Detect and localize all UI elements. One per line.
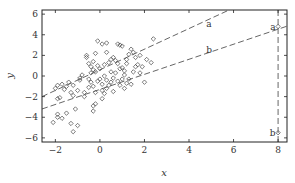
x-axis-label: x bbox=[161, 167, 167, 178]
data-point bbox=[69, 121, 73, 125]
data-point bbox=[104, 78, 108, 82]
y-tick-label: −2 bbox=[25, 92, 38, 102]
y-tick-label: 4 bbox=[32, 30, 38, 40]
data-point bbox=[118, 83, 122, 87]
data-point bbox=[120, 77, 124, 81]
data-point bbox=[122, 86, 126, 90]
data-point bbox=[95, 79, 99, 83]
x-tick-label: 8 bbox=[275, 145, 281, 155]
data-point bbox=[104, 50, 108, 54]
data-point bbox=[111, 76, 115, 80]
data-point bbox=[149, 60, 153, 64]
dashed-line-b bbox=[42, 26, 287, 109]
data-point bbox=[109, 70, 113, 74]
data-point bbox=[104, 41, 108, 45]
data-point bbox=[87, 85, 91, 89]
x-tick-label: −2 bbox=[49, 145, 62, 155]
data-point bbox=[64, 111, 68, 115]
line-label-a: a bbox=[206, 19, 212, 29]
y-axis-label: y bbox=[4, 73, 15, 80]
data-point bbox=[100, 42, 104, 46]
fit-lines bbox=[42, 0, 287, 142]
data-point bbox=[91, 109, 95, 113]
data-point bbox=[91, 84, 95, 88]
data-point bbox=[93, 51, 97, 55]
data-point bbox=[55, 112, 59, 116]
data-point bbox=[91, 104, 95, 108]
data-point bbox=[55, 115, 59, 119]
data-point bbox=[129, 82, 133, 86]
y-tick-label: −6 bbox=[25, 133, 39, 143]
line-labels: abab bbox=[206, 19, 276, 137]
data-point bbox=[98, 77, 102, 81]
x-tick-label: 2 bbox=[142, 145, 148, 155]
data-point bbox=[91, 59, 95, 63]
data-point bbox=[124, 81, 128, 85]
data-point bbox=[100, 82, 104, 86]
y-tick-label: 6 bbox=[32, 9, 38, 19]
x-axis-ticks: −202468 bbox=[49, 10, 282, 155]
dashed-line-a bbox=[42, 0, 287, 97]
data-point bbox=[131, 70, 135, 74]
data-point bbox=[60, 116, 64, 120]
data-point bbox=[144, 57, 148, 61]
data-point bbox=[60, 82, 64, 86]
data-point bbox=[113, 71, 117, 75]
scatter-chart: −202468 −6−4−20246 abab x y bbox=[0, 0, 295, 183]
x-tick-label: 4 bbox=[186, 145, 192, 155]
data-point bbox=[138, 71, 142, 75]
data-point bbox=[100, 96, 104, 100]
data-point bbox=[138, 53, 142, 57]
outlier-label-a: a bbox=[270, 22, 276, 32]
y-tick-label: −4 bbox=[25, 112, 39, 122]
data-point bbox=[151, 37, 155, 41]
outlier-label-b: b bbox=[270, 128, 276, 138]
data-point bbox=[102, 62, 106, 66]
line-label-b: b bbox=[206, 45, 212, 55]
y-axis-ticks: −6−4−20246 bbox=[25, 9, 287, 143]
data-point bbox=[93, 102, 97, 106]
data-point bbox=[71, 129, 75, 133]
data-point bbox=[75, 88, 79, 92]
data-point bbox=[133, 55, 137, 59]
data-point bbox=[133, 65, 137, 69]
data-point bbox=[102, 74, 106, 78]
x-tick-label: 6 bbox=[231, 145, 237, 155]
data-point bbox=[95, 39, 99, 43]
data-point bbox=[75, 123, 79, 127]
data-point bbox=[51, 120, 55, 124]
data-point bbox=[142, 80, 146, 84]
plot-frame bbox=[42, 10, 287, 142]
data-point bbox=[73, 107, 77, 111]
y-tick-label: 0 bbox=[32, 71, 38, 81]
scatter-points bbox=[51, 24, 280, 135]
y-tick-label: 2 bbox=[32, 50, 38, 60]
data-point bbox=[127, 52, 131, 56]
data-point bbox=[136, 62, 140, 66]
data-point bbox=[140, 65, 144, 69]
x-tick-label: 0 bbox=[97, 145, 103, 155]
data-point bbox=[71, 83, 75, 87]
data-point bbox=[111, 89, 115, 93]
